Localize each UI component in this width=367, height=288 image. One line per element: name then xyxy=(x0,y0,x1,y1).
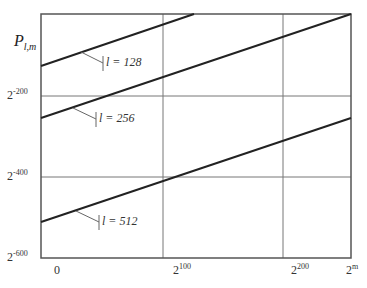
series-line-l-256 xyxy=(41,14,351,118)
y-tick-2-minus-400: 2-400 xyxy=(7,168,28,184)
series-label-l-512: l = 512 xyxy=(102,214,137,229)
series-line-l-512 xyxy=(41,118,351,222)
plot-area xyxy=(0,0,367,288)
chart: Pl,m l = 128 l = 256 l = 512 2-200 2-400… xyxy=(0,0,367,288)
series-label-l-256: l = 256 xyxy=(99,111,134,126)
leader-l-256 xyxy=(73,108,96,119)
series-label-l-128: l = 128 xyxy=(106,55,141,70)
y-axis-label: Pl,m xyxy=(14,32,36,52)
x-tick-2-100: 2100 xyxy=(173,262,191,278)
y-tick-2-minus-200: 2-200 xyxy=(7,87,28,103)
x-tick-0: 0 xyxy=(54,263,60,278)
x-tick-2-200: 2200 xyxy=(291,262,309,278)
x-tick-2-m: 2m xyxy=(346,262,358,278)
leader-l-512 xyxy=(76,211,99,222)
leader-l-128 xyxy=(81,52,103,63)
y-tick-2-minus-600: 2-600 xyxy=(7,249,28,265)
